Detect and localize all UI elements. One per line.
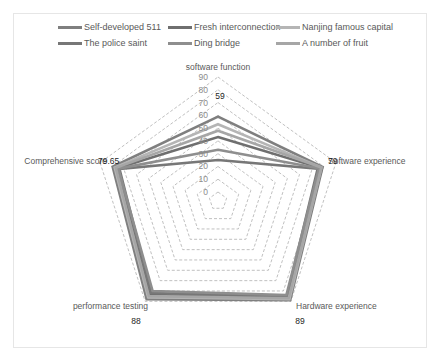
radial-tick-label: 10 (199, 174, 209, 184)
value-label-comprehensive-score: 79.65 (98, 156, 120, 166)
radial-tick-label: 70 (199, 98, 209, 108)
axis-label-software-experience: Software experience (328, 156, 406, 166)
radial-tick-label: 80 (199, 85, 209, 95)
radar-chart: 0102030405060708090 software function So… (0, 0, 438, 360)
value-label-performance-testing: 88 (131, 316, 141, 326)
axis-label-performance-testing: performance testing (73, 301, 148, 311)
radial-tick-label: 40 (199, 136, 209, 146)
grid-ring (137, 115, 300, 270)
radial-tick-label: 20 (199, 161, 209, 171)
radial-tick-label: 60 (199, 110, 209, 120)
value-label-software-function: 59 (215, 91, 225, 101)
axis-label-comprehensive-score: Comprehensive score (24, 156, 107, 166)
radial-tick-label: 30 (199, 149, 209, 159)
radial-tick-label: 50 (199, 123, 209, 133)
grid-ring (100, 77, 336, 301)
grid-ring (185, 166, 251, 229)
axis-label-hardware-experience: Hardware experience (296, 301, 377, 311)
value-label-hardware-experience: 89 (295, 316, 305, 326)
radial-tick-label: 90 (199, 72, 209, 82)
radar-grid (100, 77, 336, 301)
series-line[interactable] (118, 150, 319, 295)
grid-ring (197, 179, 238, 218)
axis-label-software-function: software function (186, 62, 251, 72)
value-label-software-experience: 79 (328, 156, 338, 166)
grid-ring (209, 192, 226, 208)
radial-tick-label: 0 (203, 187, 208, 197)
